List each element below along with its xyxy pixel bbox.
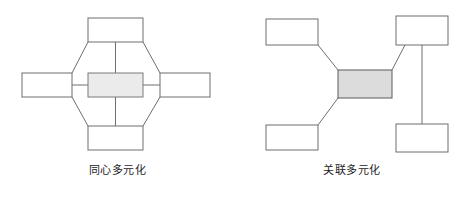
diagram-panel-concentric: 同心多元化 [0, 0, 235, 198]
figure-root: 同心多元化 关联多元化 [0, 0, 469, 198]
caption-concentric: 同心多元化 [0, 162, 235, 178]
node-top-left[interactable] [266, 19, 318, 45]
caption-related: 关联多元化 [235, 162, 469, 178]
link-core-to-top-left [318, 45, 338, 70]
node-top[interactable] [88, 18, 143, 42]
concentric-diagram-svg [0, 0, 235, 162]
link-bottom-to-left [72, 97, 88, 126]
node-core[interactable] [338, 70, 392, 98]
node-bottom[interactable] [88, 126, 143, 150]
related-diagram-svg [235, 0, 469, 162]
link-top-to-left [72, 42, 88, 73]
link-core-to-bottom-left [318, 98, 338, 125]
node-top-right[interactable] [396, 16, 448, 45]
node-left[interactable] [22, 73, 72, 97]
node-right[interactable] [160, 73, 210, 97]
link-bottom-to-right [143, 97, 160, 126]
node-bottom-right[interactable] [396, 124, 448, 152]
diagram-panel-related: 关联多元化 [235, 0, 469, 198]
link-top-to-right [143, 42, 160, 73]
node-bottom-left[interactable] [266, 125, 318, 150]
node-core[interactable] [88, 73, 143, 97]
link-core-to-top-right [392, 45, 405, 70]
